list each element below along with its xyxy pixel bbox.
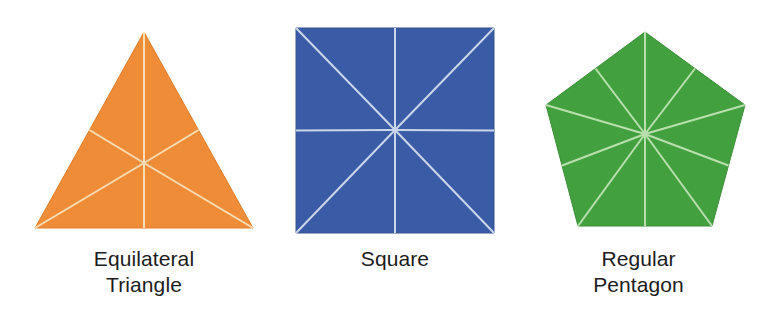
caption-square: Square [288,246,502,272]
shape-cell-equilateral-triangle: Equilateral Triangle [0,0,288,326]
shape-cell-regular-pentagon: Regular Pentagon [502,0,775,326]
caption-regular-pentagon: Regular Pentagon [502,246,775,298]
shape-cell-square: Square [288,0,502,326]
polygon-figure: Equilateral Triangle Square Regular Pent… [0,0,775,326]
caption-equilateral-triangle: Equilateral Triangle [0,246,288,298]
